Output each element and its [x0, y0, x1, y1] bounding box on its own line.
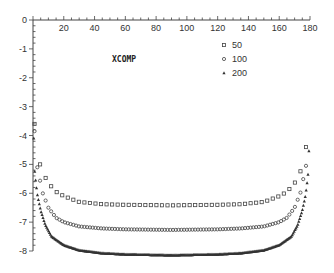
- x-tick-label: 60: [120, 23, 130, 33]
- data-point: [116, 203, 119, 206]
- data-point: [296, 198, 299, 201]
- y-tick-label: -7: [19, 217, 27, 227]
- data-point: [38, 202, 41, 205]
- data-point: [260, 201, 263, 204]
- circle-marker-icon: [222, 57, 225, 60]
- data-point: [232, 203, 235, 206]
- data-point: [302, 204, 305, 207]
- data-point: [194, 203, 197, 206]
- data-point: [133, 203, 136, 206]
- x-tick-label: 120: [210, 23, 225, 33]
- data-point: [249, 202, 252, 205]
- data-point: [305, 189, 308, 192]
- series-50: [33, 122, 308, 207]
- triangle-marker-icon: [222, 71, 225, 74]
- data-point: [299, 214, 302, 217]
- data-point: [40, 210, 43, 213]
- data-point: [83, 201, 86, 204]
- data-point: [149, 204, 152, 207]
- data-point: [61, 194, 64, 197]
- data-point: [298, 217, 301, 220]
- data-point: [221, 203, 224, 206]
- y-tick-label: -3: [19, 102, 27, 112]
- data-point: [291, 209, 294, 212]
- data-point: [216, 203, 219, 206]
- data-point: [171, 204, 174, 207]
- x-tick-label: 100: [179, 23, 194, 33]
- data-point: [166, 204, 169, 207]
- square-marker-icon: [222, 43, 225, 46]
- data-point: [188, 204, 191, 207]
- data-point: [99, 202, 102, 205]
- data-point: [105, 203, 108, 206]
- legend-item-50: 50: [222, 40, 242, 50]
- data-point: [210, 203, 213, 206]
- data-point: [38, 163, 41, 166]
- data-point: [296, 223, 299, 226]
- data-point: [55, 191, 58, 194]
- data-point: [66, 196, 69, 199]
- data-point: [122, 203, 125, 206]
- y-tick-label: -5: [19, 159, 27, 169]
- series-layer: [32, 122, 310, 256]
- data-point: [299, 170, 302, 173]
- data-point: [183, 204, 186, 207]
- legend-label: 50: [232, 40, 242, 50]
- data-point: [110, 203, 113, 206]
- data-point: [243, 202, 246, 205]
- data-point: [39, 207, 42, 210]
- y-tick-label: -8: [19, 246, 27, 256]
- legend-item-200: 200: [222, 68, 247, 78]
- data-point: [144, 203, 147, 206]
- data-point: [285, 216, 288, 219]
- series-100: [33, 130, 308, 232]
- data-point: [305, 181, 308, 184]
- data-point: [77, 200, 80, 203]
- data-point: [277, 195, 280, 198]
- data-point: [303, 199, 306, 202]
- y-tick-label: -4: [19, 131, 27, 141]
- data-point: [52, 213, 55, 216]
- data-point: [138, 203, 141, 206]
- x-tick-label: 20: [59, 23, 69, 33]
- x-tick-label: 160: [272, 23, 287, 33]
- data-point: [297, 220, 300, 223]
- data-point: [50, 185, 53, 188]
- data-point: [72, 198, 75, 201]
- data-point: [205, 203, 208, 206]
- data-point: [37, 198, 40, 201]
- data-point: [94, 202, 97, 205]
- data-point: [227, 203, 230, 206]
- data-point: [271, 197, 274, 200]
- y-tick-label: -1: [19, 44, 27, 54]
- x-tick-label: 140: [241, 23, 256, 33]
- data-point: [41, 216, 44, 219]
- y-tick-label: -2: [19, 73, 27, 83]
- data-point: [88, 201, 91, 204]
- x-tick-label: 180: [302, 23, 317, 33]
- data-point: [238, 203, 241, 206]
- data-point: [42, 219, 45, 222]
- legend-label: 200: [232, 68, 247, 78]
- data-point: [301, 208, 304, 211]
- legend-item-100: 100: [222, 54, 247, 64]
- legend: XCOMP 50100200: [112, 40, 247, 78]
- data-point: [282, 192, 285, 195]
- data-point: [304, 145, 307, 148]
- data-point: [177, 204, 180, 207]
- data-point: [41, 192, 44, 195]
- data-point: [44, 199, 47, 202]
- data-point: [306, 173, 309, 176]
- chart-canvas: 20406080100120140160180 0-1-2-3-4-5-6-7-…: [0, 0, 334, 273]
- x-tick-label: 80: [151, 23, 161, 33]
- data-point: [44, 176, 47, 179]
- data-point: [302, 178, 305, 181]
- data-point: [36, 166, 39, 169]
- legend-label: 100: [232, 54, 247, 64]
- data-point: [293, 181, 296, 184]
- data-point: [304, 195, 307, 198]
- data-point: [266, 199, 269, 202]
- data-point: [288, 213, 291, 216]
- data-point: [288, 187, 291, 190]
- data-point: [160, 204, 163, 207]
